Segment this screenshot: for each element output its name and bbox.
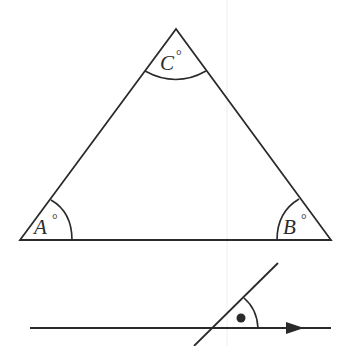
angle-a-degree: ° bbox=[52, 212, 58, 227]
transversal-angle-arc bbox=[244, 298, 258, 328]
angle-c-degree: ° bbox=[176, 48, 182, 63]
angle-a-label: A bbox=[32, 215, 47, 239]
angle-b-degree: ° bbox=[301, 212, 307, 227]
diagonal-line bbox=[194, 263, 278, 346]
angle-dot-marker bbox=[237, 314, 246, 323]
arrow-head-icon bbox=[286, 322, 304, 334]
angle-c-label: C bbox=[160, 51, 175, 75]
angle-b-label: B bbox=[283, 215, 296, 239]
angle-c-arc bbox=[145, 71, 206, 80]
angles-diagram: C ° A ° B ° bbox=[0, 0, 353, 346]
